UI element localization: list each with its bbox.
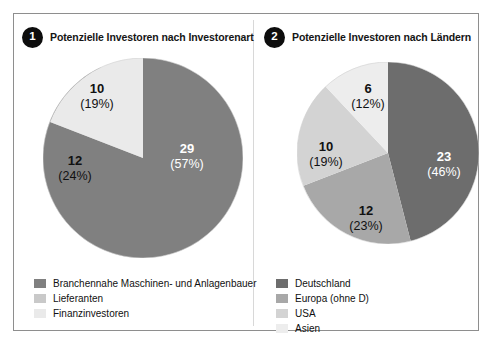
panel-title-1: Potenzielle Investoren nach Investorenar… (50, 31, 254, 43)
legend-swatch-icon-lieferanten (34, 294, 46, 303)
legend-item-usa: USA (276, 306, 369, 321)
legend-swatch-icon-deutschland (276, 279, 288, 288)
legend-swatch-icon-usa (276, 309, 288, 318)
legend-label-deutschland: Deutschland (295, 278, 351, 289)
legend-label-branchennahe: Branchennahe Maschinen- und Anlagenbauer (53, 278, 257, 289)
legend-swatch-icon-branchennahe (34, 279, 46, 288)
pie-svg-2 (297, 62, 479, 244)
panel-header-2: 2 Potenzielle Investoren nach Ländern (264, 26, 476, 48)
panel-number-badge-2: 2 (264, 27, 285, 48)
legend-swatch-icon-finanzinvestoren (34, 309, 46, 318)
legend-item-europa: Europa (ohne D) (276, 291, 369, 306)
legend-item-asien: Asien (276, 321, 369, 336)
legend-investor-type: Branchennahe Maschinen- und Anlagenbauer… (34, 276, 257, 321)
legend-label-usa: USA (295, 308, 316, 319)
legend-swatch-icon-europa (276, 294, 288, 303)
chart-panel-investor-type: 1 Potenzielle Investoren nach Investoren… (14, 14, 253, 330)
legend-item-deutschland: Deutschland (276, 276, 369, 291)
legend-item-branchennahe: Branchennahe Maschinen- und Anlagenbauer (34, 276, 257, 291)
legend-label-finanzinvestoren: Finanzinvestoren (53, 308, 129, 319)
legend-label-lieferanten: Lieferanten (53, 293, 103, 304)
legend-item-finanzinvestoren: Finanzinvestoren (34, 306, 257, 321)
pie-chart-countries: 23 (46%) 12 (23%) 10 (19%) 6 (12%) (297, 62, 479, 244)
pie-chart-investor-type: 29 (57%) 12 (24%) 10 (19%) (43, 58, 243, 258)
chart-panel-countries: 2 Potenzielle Investoren nach Ländern 23… (254, 14, 480, 330)
figure-frame: 1 Potenzielle Investoren nach Investoren… (13, 13, 479, 331)
legend-swatch-icon-asien (276, 324, 288, 333)
legend-countries: Deutschland Europa (ohne D) USA Asien (276, 276, 369, 336)
panel-number-badge-1: 1 (22, 27, 43, 48)
legend-label-europa: Europa (ohne D) (295, 293, 369, 304)
panel-header-1: 1 Potenzielle Investoren nach Investoren… (22, 26, 249, 48)
panel-title-2: Potenzielle Investoren nach Ländern (292, 31, 471, 43)
pie-svg-1 (43, 58, 243, 258)
legend-label-asien: Asien (295, 323, 320, 334)
legend-item-lieferanten: Lieferanten (34, 291, 257, 306)
